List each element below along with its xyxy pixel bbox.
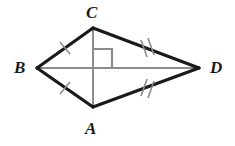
- diagonals-group: [37, 28, 199, 107]
- tick-edge-CD-2: [148, 38, 154, 55]
- right-angle-marker: [93, 49, 112, 68]
- vertex-label-B: B: [14, 59, 25, 76]
- vertex-label-A: A: [85, 120, 96, 137]
- kite-diagram-canvas: [0, 0, 235, 146]
- tick-edge-AD-2: [148, 81, 154, 98]
- vertex-label-D: D: [210, 59, 222, 76]
- vertex-label-C: C: [86, 4, 97, 21]
- kite-geometry-figure: C B D A: [0, 0, 235, 146]
- edge-DA: [93, 68, 199, 107]
